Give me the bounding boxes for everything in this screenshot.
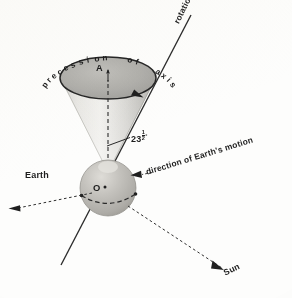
orbit-direction-arrow xyxy=(9,193,93,212)
precession-label-char: o xyxy=(126,55,133,65)
north-pole-cap xyxy=(98,161,118,173)
precession-label-char: f xyxy=(135,57,140,66)
sun-arrow-line xyxy=(128,206,222,268)
precession-label-char xyxy=(120,54,124,63)
axial-tilt-label: 2312° xyxy=(131,130,147,144)
earth-center-dot xyxy=(104,186,107,189)
sun-direction-arrow xyxy=(128,206,224,270)
tilt-value: 23 xyxy=(131,134,141,144)
precession-label-char: n xyxy=(102,53,108,62)
earth-globe xyxy=(80,160,138,216)
orbit-arrow-head xyxy=(9,205,21,211)
earth-label: Earth xyxy=(25,170,49,180)
precession-diagram-figure: precession of axis rotation axis 2312° d… xyxy=(0,0,292,298)
precession-label-char xyxy=(112,54,115,63)
precession-label-char xyxy=(142,60,148,69)
orbit-arrow-line xyxy=(18,193,92,208)
precession-label-char: i xyxy=(86,55,90,64)
precession-label-char: s xyxy=(77,57,84,67)
precession-of-axis-label: precession of axis xyxy=(47,34,177,68)
equator-endpoint-right xyxy=(134,192,138,196)
degree-symbol: ° xyxy=(145,133,147,139)
earth-center-label-o: O xyxy=(93,182,101,193)
cone-apex-label-a: A xyxy=(96,63,103,73)
